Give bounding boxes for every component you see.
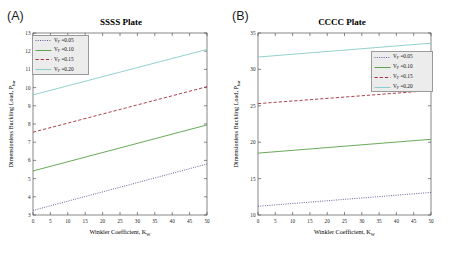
- x-tick-label: 50: [428, 218, 434, 224]
- legend-line-swatch: [35, 66, 52, 73]
- y-tick-label: 15: [250, 176, 256, 182]
- legend-line-swatch: [35, 37, 52, 44]
- x-tick-label: 0: [32, 218, 35, 224]
- x-tick-label: 30: [359, 218, 365, 224]
- legend-label: VF =0.05: [393, 54, 413, 60]
- legend-entry-0: VF =0.05: [33, 36, 88, 46]
- x-tick-label: 30: [135, 218, 141, 224]
- x-tick-label: 5: [274, 218, 277, 224]
- x-tick-label: 0: [257, 218, 260, 224]
- y-tick-label: 20: [250, 139, 256, 145]
- x-tick-label: 45: [411, 218, 417, 224]
- x-tick-label: 10: [290, 218, 296, 224]
- x-axis-title: Winkler Coefficient, KW: [89, 228, 151, 237]
- y-axis-title: Dimensionless Buckling Load, Pbar: [7, 80, 16, 168]
- legend-line-swatch: [374, 64, 391, 71]
- legend-label: VF =0.10: [54, 47, 74, 53]
- x-tick-label: 10: [65, 218, 71, 224]
- x-axis-title: Winkler Coefficient, KW: [314, 228, 376, 237]
- y-tick-label: 13: [25, 30, 31, 36]
- legend-entry-3: VF =0.20: [33, 65, 88, 75]
- y-tick-label: 7: [28, 139, 31, 145]
- legend-line-swatch: [35, 47, 52, 54]
- panel-a: (A) SSSS Plate 0510152025303540455034567…: [0, 0, 224, 258]
- y-tick-label: 3: [28, 212, 31, 218]
- y-tick-label: 25: [250, 103, 256, 109]
- series-line-1: [33, 125, 207, 171]
- legend-label: VF =0.20: [54, 67, 74, 73]
- y-tick-label: 5: [28, 176, 31, 182]
- panel-b-svg: 05101520253035404550101520253035Winkler …: [225, 0, 449, 258]
- x-tick-label: 20: [100, 218, 106, 224]
- panel-a-legend: VF =0.05VF =0.10VF =0.15VF =0.20: [32, 35, 89, 75]
- y-tick-label: 9: [28, 103, 31, 109]
- y-tick-label: 11: [26, 66, 31, 72]
- y-tick-label: 10: [25, 85, 31, 91]
- y-tick-label: 4: [28, 194, 31, 200]
- legend-entry-1: VF =0.10: [33, 46, 88, 56]
- legend-entry-2: VF =0.15: [33, 55, 88, 65]
- y-axis-title: Dimensionless Buckling Load, Pbar: [232, 80, 241, 168]
- x-tick-label: 5: [49, 218, 52, 224]
- legend-label: VF =0.10: [393, 64, 413, 70]
- y-tick-label: 10: [250, 212, 256, 218]
- svg-text:Dimensionless Buckling Load, P: Dimensionless Buckling Load, Pbar: [7, 80, 16, 168]
- legend-line-swatch: [35, 56, 52, 63]
- x-tick-label: 45: [187, 218, 193, 224]
- svg-text:Dimensionless Buckling Load, P: Dimensionless Buckling Load, Pbar: [232, 80, 241, 168]
- legend-label: VF =0.15: [393, 74, 413, 80]
- x-tick-label: 15: [83, 218, 89, 224]
- figure-container: (A) SSSS Plate 0510152025303540455034567…: [0, 0, 449, 258]
- legend-label: VF =0.15: [54, 57, 74, 63]
- legend-label: VF =0.20: [393, 84, 413, 90]
- series-line-0: [33, 164, 207, 210]
- panel-b-plot: 05101520253035404550101520253035Winkler …: [225, 0, 449, 258]
- legend-line-swatch: [374, 84, 391, 91]
- y-tick-label: 6: [28, 157, 31, 163]
- series-line-2: [33, 87, 207, 133]
- legend-line-swatch: [374, 54, 391, 61]
- x-tick-label: 35: [377, 218, 383, 224]
- legend-line-swatch: [374, 74, 391, 81]
- panel-b-legend: VF =0.05VF =0.10VF =0.15VF =0.20: [371, 51, 433, 92]
- x-tick-label: 20: [325, 218, 331, 224]
- y-tick-label: 35: [250, 30, 256, 36]
- series-line-0: [258, 192, 431, 206]
- x-tick-label: 25: [117, 218, 123, 224]
- y-tick-label: 30: [250, 66, 256, 72]
- panel-b: (B) CCCC Plate 0510152025303540455010152…: [225, 0, 449, 258]
- legend-entry-0: VF =0.05: [372, 52, 432, 62]
- y-tick-label: 8: [28, 121, 31, 127]
- x-tick-label: 35: [152, 218, 158, 224]
- x-tick-label: 15: [307, 218, 313, 224]
- x-tick-label: 25: [342, 218, 348, 224]
- series-line-2: [258, 91, 431, 104]
- x-tick-label: 40: [170, 218, 176, 224]
- y-tick-label: 12: [25, 48, 31, 54]
- legend-entry-3: VF =0.20: [372, 82, 432, 92]
- legend-entry-1: VF =0.10: [372, 62, 432, 72]
- legend-entry-2: VF =0.15: [372, 72, 432, 82]
- x-tick-label: 50: [204, 218, 210, 224]
- x-tick-label: 40: [394, 218, 400, 224]
- series-line-1: [258, 139, 431, 153]
- legend-label: VF =0.05: [54, 38, 74, 44]
